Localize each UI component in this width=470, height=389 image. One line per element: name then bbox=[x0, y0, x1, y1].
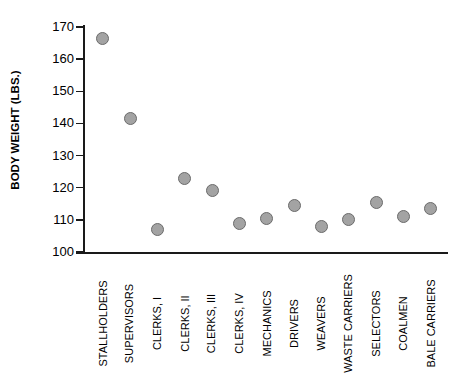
x-axis-tick-labels: STALLHOLDERSSUPERVISORSCLERKS, ICLERKS, … bbox=[83, 256, 448, 389]
y-axis-title: BODY WEIGHT (LBS.) bbox=[0, 0, 30, 260]
y-axis-title-label: BODY WEIGHT (LBS.) bbox=[9, 70, 21, 189]
data-point-marker bbox=[206, 184, 219, 197]
chart-figure: BODY WEIGHT (LBS.) 100110120130140150160… bbox=[0, 0, 470, 389]
x-axis-line bbox=[76, 252, 448, 254]
y-axis-tick-label: 110 bbox=[46, 213, 74, 226]
data-point-marker bbox=[424, 202, 437, 215]
x-axis-tick-label-text: BALE CARRIERS bbox=[425, 279, 436, 367]
data-point-marker bbox=[342, 213, 355, 226]
y-axis-tick-label: 160 bbox=[46, 52, 74, 65]
x-axis-tick-label: BALE CARRIERS bbox=[366, 256, 470, 386]
plot-area bbox=[83, 27, 448, 252]
data-point-marker bbox=[370, 196, 383, 209]
data-point-marker bbox=[178, 172, 191, 185]
y-axis-tick-label: 150 bbox=[46, 84, 74, 97]
y-axis-tick-label: 170 bbox=[46, 20, 74, 33]
data-point-marker bbox=[96, 32, 109, 45]
data-point-marker bbox=[288, 199, 301, 212]
data-point-marker bbox=[315, 220, 328, 233]
data-point-marker bbox=[151, 223, 164, 236]
data-point-marker bbox=[397, 210, 410, 223]
data-point-marker bbox=[260, 212, 273, 225]
y-axis-tick-label: 120 bbox=[46, 181, 74, 194]
data-point-marker bbox=[233, 217, 246, 230]
data-point-marker bbox=[124, 112, 137, 125]
y-axis-tick-label: 130 bbox=[46, 149, 74, 162]
y-axis-tick-label: 140 bbox=[46, 116, 74, 129]
